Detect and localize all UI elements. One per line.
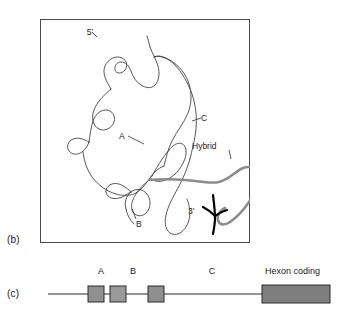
three-prime-branch-left [203, 207, 215, 216]
panel-b: (b) C [0, 0, 340, 255]
hybrid-strand [149, 167, 250, 224]
micrograph-label-b: B [136, 219, 142, 229]
leader-line-b [132, 209, 136, 219]
dna-strand-5prime-arm [104, 47, 159, 89]
dna-strand-left-sweep [83, 152, 147, 195]
dna-strand-b-lobe [125, 182, 150, 216]
leader-line-a [128, 136, 144, 144]
dna-strand-5prime-tip [147, 36, 150, 47]
dna-strand-left-loop [89, 89, 115, 142]
micrograph-label-c: C [201, 113, 207, 123]
panel-b-caption-label: (b) [7, 234, 20, 246]
micrograph-tracing: C B A 5′ Hybrid [40, 19, 250, 243]
gene-map-label-hexon: Hexon coding [265, 266, 320, 276]
panel-c: (c) A B C Hexon coding [0, 255, 340, 318]
micrograph-label-hybrid: Hybrid [192, 141, 217, 151]
exon-box-b [148, 286, 164, 302]
exon-box-a2 [110, 286, 126, 302]
dna-strand-lower-loop [165, 159, 190, 234]
gene-map-label-b: B [130, 266, 136, 276]
gene-map-label-c: C [209, 266, 216, 276]
gene-map-label-a: A [98, 266, 104, 276]
exon-box-a1 [88, 286, 104, 302]
dna-strand-c-arm [154, 56, 191, 166]
figure-root: (b) C [0, 0, 340, 318]
leader-line-hybrid [229, 150, 231, 159]
micrograph-label-5prime: 5′ [87, 27, 94, 37]
exon-box-hexon [262, 285, 330, 303]
micrograph-label-3prime: 3′ [188, 206, 195, 216]
micrograph-label-a: A [119, 131, 125, 141]
dna-strand-left-pinch [68, 138, 89, 154]
gene-map: A B C Hexon coding [0, 255, 340, 318]
